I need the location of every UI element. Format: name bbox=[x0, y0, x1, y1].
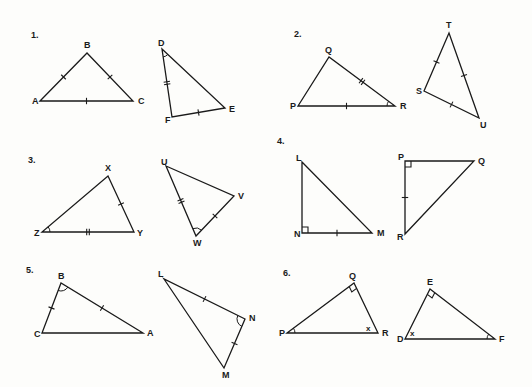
vertex-label-r: R bbox=[382, 328, 389, 338]
vertex-label-e: E bbox=[229, 104, 235, 114]
problem-number: 1. bbox=[31, 30, 39, 40]
worksheet-page: 1.ABCDEF2.PQRSTU3.XYZUVW4.LMNPQR5.ABCLMN… bbox=[0, 0, 532, 387]
vertex-label-u: U bbox=[480, 120, 487, 130]
vertex-label-m: M bbox=[377, 228, 385, 238]
triangle-lmn: LMN bbox=[294, 153, 385, 239]
vertex-label-x: X bbox=[105, 163, 111, 173]
vertex-label-r: R bbox=[397, 232, 404, 242]
vertex-label-p: P bbox=[290, 101, 296, 111]
vertex-label-r: R bbox=[400, 101, 407, 111]
vertex-label-b: B bbox=[58, 271, 65, 281]
triangle-xyz: XYZ bbox=[34, 163, 143, 238]
congruence-tick-mark bbox=[164, 84, 170, 85]
vertex-label-c: C bbox=[34, 329, 41, 339]
triangle-outline bbox=[40, 53, 133, 101]
angle-arc-mark bbox=[387, 101, 389, 106]
triangle-def: DEFx bbox=[397, 277, 505, 344]
problem-number: 2. bbox=[294, 29, 302, 39]
triangle-outline bbox=[302, 162, 372, 233]
angle-arc-mark bbox=[487, 334, 489, 339]
vertex-label-q: Q bbox=[478, 156, 485, 166]
triangle-lmn: LMN bbox=[158, 269, 256, 380]
vertex-label-y: Y bbox=[137, 228, 143, 238]
vertex-label-d: D bbox=[158, 38, 165, 48]
triangle-abc: ABC bbox=[32, 40, 145, 106]
triangle-abc: ABC bbox=[34, 271, 154, 339]
vertex-label-d: D bbox=[397, 334, 404, 344]
angle-arc-mark bbox=[163, 54, 168, 56]
triangle-outline bbox=[405, 161, 474, 234]
problem-number: 5. bbox=[26, 265, 34, 275]
vertex-label-n: N bbox=[249, 313, 256, 323]
angle-variable-label: x bbox=[410, 329, 415, 338]
triangle-outline bbox=[287, 283, 378, 333]
angle-arc-mark bbox=[193, 228, 202, 230]
triangle-def: DEF bbox=[158, 38, 235, 125]
vertex-label-p: P bbox=[279, 328, 285, 338]
right-angle-mark bbox=[302, 227, 308, 233]
vertex-label-a: A bbox=[32, 96, 39, 106]
problem-number: 6. bbox=[283, 268, 291, 278]
triangle-outline bbox=[42, 283, 143, 333]
congruence-tick-mark bbox=[198, 109, 199, 115]
vertex-label-q: Q bbox=[349, 271, 356, 281]
vertex-label-b: B bbox=[84, 40, 91, 50]
vertex-label-w: W bbox=[193, 238, 202, 248]
vertex-label-a: A bbox=[147, 328, 154, 338]
triangle-pqr: PQR bbox=[290, 45, 407, 111]
vertex-label-f: F bbox=[165, 115, 171, 125]
vertex-label-z: Z bbox=[34, 228, 40, 238]
vertex-label-s: S bbox=[416, 86, 422, 96]
triangle-congruence-figures: 1.ABCDEF2.PQRSTU3.XYZUVW4.LMNPQR5.ABCLMN… bbox=[0, 0, 532, 387]
triangle-outline bbox=[405, 289, 495, 339]
vertex-label-v: V bbox=[238, 191, 244, 201]
right-angle-mark bbox=[405, 161, 411, 167]
triangle-stu: STU bbox=[416, 20, 487, 130]
triangle-outline bbox=[164, 279, 245, 368]
problem-2: 2.PQRSTU bbox=[290, 20, 487, 130]
triangle-pqr: PQRx bbox=[279, 271, 389, 338]
angle-variable-label: x bbox=[366, 324, 371, 333]
triangle-pqr: PQR bbox=[397, 152, 485, 242]
triangle-outline bbox=[298, 57, 395, 106]
problem-number: 4. bbox=[277, 136, 285, 146]
vertex-label-t: T bbox=[446, 20, 452, 30]
problem-4: 4.LMNPQR bbox=[277, 136, 485, 242]
triangle-uvw: UVW bbox=[161, 157, 244, 248]
triangle-outline bbox=[166, 166, 234, 236]
vertex-label-u: U bbox=[161, 157, 168, 167]
vertex-label-l: L bbox=[296, 153, 302, 163]
vertex-label-m: M bbox=[222, 370, 230, 380]
problem-3: 3.XYZUVW bbox=[28, 155, 244, 248]
angle-arc-mark bbox=[48, 227, 50, 232]
vertex-label-e: E bbox=[427, 277, 433, 287]
vertex-label-c: C bbox=[138, 96, 145, 106]
problem-number: 3. bbox=[28, 155, 36, 165]
vertex-label-p: P bbox=[398, 152, 404, 162]
vertex-label-f: F bbox=[499, 334, 505, 344]
vertex-label-n: N bbox=[294, 229, 301, 239]
congruence-tick-mark bbox=[164, 81, 170, 82]
triangle-outline bbox=[162, 49, 225, 117]
angle-arc-mark bbox=[293, 328, 295, 333]
problem-5: 5.ABCLMN bbox=[26, 265, 256, 380]
problem-6: 6.PQRxDEFx bbox=[279, 268, 505, 344]
problem-1: 1.ABCDEF bbox=[31, 30, 235, 125]
vertex-label-l: L bbox=[158, 269, 164, 279]
vertex-label-q: Q bbox=[325, 45, 332, 55]
